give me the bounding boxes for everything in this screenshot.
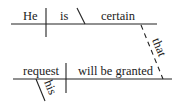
main-verb: is bbox=[60, 9, 68, 23]
main-subject: He bbox=[23, 9, 38, 23]
sentence-diagram: He is certain that request will be grant… bbox=[0, 0, 180, 107]
subordinate-verb: will be granted bbox=[78, 64, 154, 78]
connector-word: that bbox=[149, 36, 169, 59]
subordinate-subject: request bbox=[23, 64, 60, 78]
modifier-word: his bbox=[41, 78, 59, 97]
predicate-adjective: certain bbox=[101, 9, 136, 23]
predicate-adjective-slant bbox=[77, 8, 85, 24]
